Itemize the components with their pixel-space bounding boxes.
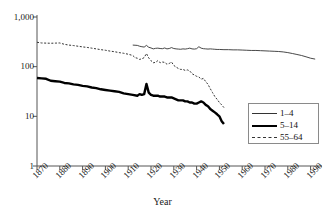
legend-item-55-64[interactable]: 55–64 <box>252 131 303 143</box>
chart-legend: 1–4 5–14 55–64 <box>248 103 319 144</box>
chart-container: 1,000100101 1870188018901900191019201930… <box>0 0 325 213</box>
legend-label: 1–4 <box>280 109 294 118</box>
y-axis-ticks <box>33 17 37 166</box>
legend-item-5-14[interactable]: 5–14 <box>252 119 298 131</box>
legend-line-dashed-icon <box>252 132 277 142</box>
legend-item-1-4[interactable]: 1–4 <box>252 107 294 119</box>
series-line-1-4 <box>133 45 315 59</box>
x-axis-title: Year <box>0 197 325 207</box>
legend-line-thin-solid-icon <box>252 108 277 118</box>
series-line-5-14 <box>37 78 224 124</box>
legend-line-thick-solid-icon <box>252 120 277 130</box>
legend-label: 5–14 <box>280 121 298 130</box>
chart-axes <box>33 15 322 170</box>
y-axis-tick-label: 1,000 <box>0 13 34 22</box>
legend-label: 55–64 <box>280 133 303 142</box>
y-axis-tick-label: 1 <box>0 162 34 171</box>
series-line-55-64 <box>37 42 224 107</box>
y-axis-tick-label: 10 <box>0 112 34 121</box>
y-axis-tick-label: 100 <box>0 62 34 71</box>
